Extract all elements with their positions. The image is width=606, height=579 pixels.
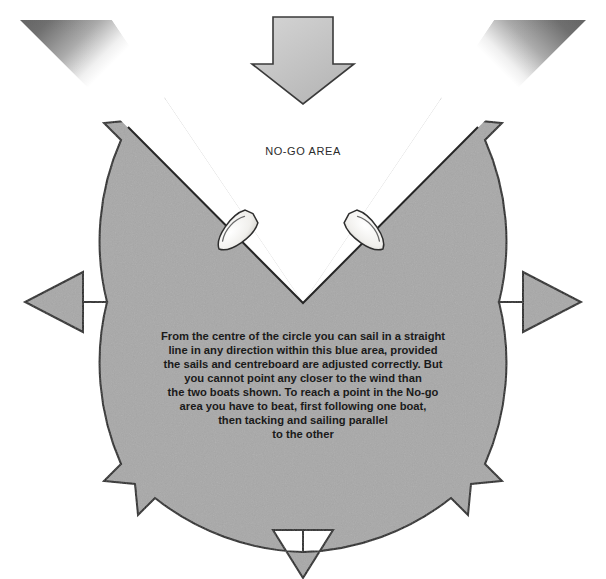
body-line-8: to the other xyxy=(272,428,334,440)
body-line-2: line in any direction within this blue a… xyxy=(168,344,437,356)
body-line-1: From the centre of the circle you can sa… xyxy=(161,330,445,342)
body-line-3: the sails and centreboard are adjusted c… xyxy=(164,358,443,370)
no-go-area-label: NO-GO AREA xyxy=(265,145,341,157)
no-go-area-diagram: NO-GO AREA From the centre of the circle… xyxy=(0,0,606,579)
body-line-4: you cannot point any closer to the wind … xyxy=(184,372,422,384)
diagram-canvas: NO-GO AREA From the centre of the circle… xyxy=(0,0,606,579)
body-line-6: area you have to beat, first following o… xyxy=(180,400,427,412)
body-line-5: the two boats shown. To reach a point in… xyxy=(168,386,439,398)
body-line-7: then tacking and sailing parallel xyxy=(218,414,388,426)
